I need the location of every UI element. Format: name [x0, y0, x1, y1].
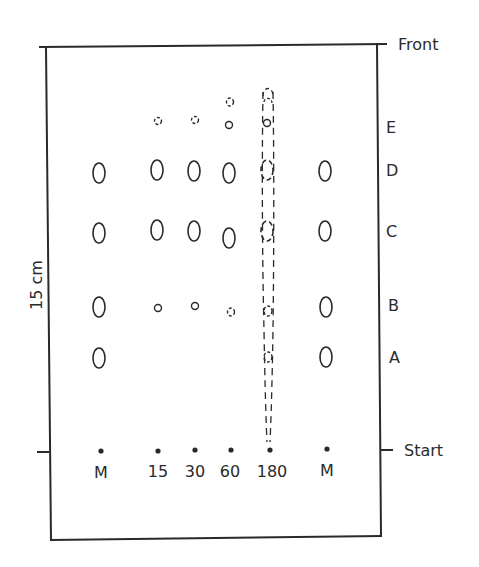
spot-lane-180-band-e — [264, 120, 271, 127]
lane-180-streak — [262, 89, 273, 443]
spot-lane-m-right-band-c — [319, 221, 331, 241]
lane-label-m-left: M — [94, 463, 108, 482]
lane-label-m-right: M — [320, 461, 334, 480]
spot-lane-30-band-d — [188, 161, 200, 181]
spots-layer — [93, 98, 332, 368]
spot-lane-30-band-c — [188, 221, 200, 241]
plate-right-edge — [377, 44, 381, 536]
start-label: Start — [404, 441, 443, 460]
spot-lane-60-band-c — [223, 228, 235, 248]
spot-lane-30-band-e — [192, 117, 199, 124]
band-label-e: E — [386, 118, 396, 137]
band-labels: E D C B A — [386, 118, 400, 367]
origin-dot — [155, 448, 160, 453]
lane-label-15: 15 — [148, 462, 168, 481]
spot-lane-180-band-c — [261, 221, 273, 241]
band-label-b: B — [388, 296, 399, 315]
lane-label-180: 180 — [257, 462, 288, 481]
origin-dot — [98, 448, 103, 453]
origin-dot — [228, 447, 233, 452]
plate-bottom-edge — [51, 536, 381, 540]
lane-label-60: 60 — [220, 462, 240, 481]
spot-lane-60-band-above-e — [227, 98, 234, 106]
spot-lane-180-band-b — [264, 306, 272, 316]
lane-origins — [98, 446, 329, 453]
spot-lane-180-band-a — [264, 352, 272, 362]
spot-lane-m-left-band-b — [93, 297, 105, 317]
spot-lane-15-band-c — [151, 220, 163, 240]
spot-lane-30-band-b — [192, 303, 199, 310]
spot-lane-m-right-band-b — [320, 297, 332, 317]
spot-lane-m-left-band-c — [93, 223, 105, 243]
spot-lane-m-left-band-a — [93, 348, 105, 368]
spot-lane-15-band-d — [151, 160, 163, 180]
front-label: Front — [398, 35, 438, 54]
spot-lane-60-band-d — [223, 163, 235, 183]
band-label-c: C — [386, 222, 397, 241]
lane-labels: M 15 30 60 180 M — [94, 461, 334, 482]
streak-right-edge — [270, 92, 274, 442]
band-label-a: A — [389, 348, 400, 367]
plate-outline — [38, 44, 392, 540]
origin-dot — [192, 447, 197, 452]
streak-left-edge — [262, 92, 267, 442]
spot-lane-60-band-b — [228, 308, 235, 316]
spot-lane-15-band-e — [155, 118, 162, 125]
spot-lane-m-right-band-d — [319, 161, 331, 181]
origin-dot — [324, 446, 329, 451]
streak-top-loop — [264, 98, 272, 103]
spot-lane-m-right-band-a — [320, 347, 332, 367]
spot-lane-60-band-e — [226, 122, 233, 129]
scale-label: 15 cm — [27, 260, 46, 310]
band-label-d: D — [386, 161, 398, 180]
spot-lane-m-left-band-d — [93, 163, 105, 183]
plate-top-edge — [40, 44, 386, 47]
streak-top-cap — [263, 89, 273, 97]
spot-lane-15-band-b — [155, 305, 162, 312]
lane-label-30: 30 — [185, 462, 205, 481]
origin-dot — [267, 447, 272, 452]
tlc-diagram: Front Start 15 cm E D C B A M 15 30 60 1… — [0, 0, 479, 567]
plate-left-edge — [46, 47, 51, 540]
